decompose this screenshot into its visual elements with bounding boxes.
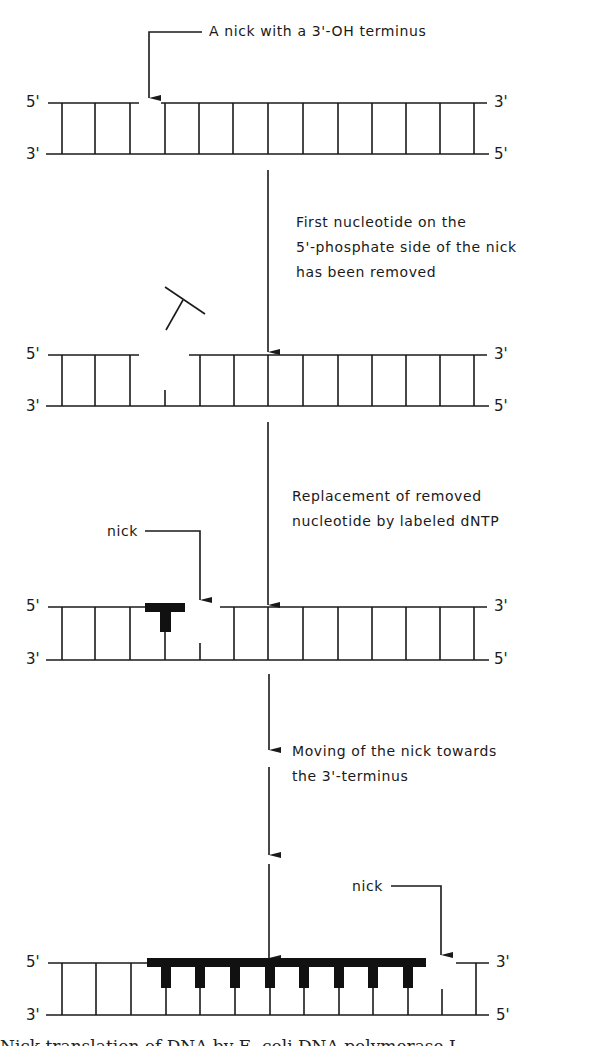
stage2-step-label: First nucleotide on the 5'-phosphate sid… <box>296 210 517 285</box>
stage4-top-right-end: 3' <box>496 953 510 971</box>
removed-nucleotide-icon <box>165 287 205 330</box>
stage1-top-right-end: 3' <box>494 93 508 111</box>
labeled-nucleotide-icon <box>145 603 185 632</box>
stage4-bottom-left-end: 3' <box>26 1006 40 1024</box>
stage3-bottom-right-end: 5' <box>494 650 508 668</box>
stage4-nick-label: nick <box>352 877 383 896</box>
nick-callout-arrow <box>149 32 202 98</box>
stage4-duplex <box>46 886 489 1015</box>
stage3-bottom-left-end: 3' <box>26 650 40 668</box>
stage3-top-right-end: 3' <box>494 597 508 615</box>
stage3-step-label: Replacement of removed nucleotide by lab… <box>292 484 499 534</box>
stage4-bottom-right-end: 5' <box>496 1006 510 1024</box>
base-pair-rungs <box>62 103 474 154</box>
stage1-bottom-left-end: 3' <box>26 145 40 163</box>
stage2-bottom-right-end: 5' <box>494 397 508 415</box>
labeled-strand-icon <box>147 958 426 988</box>
nick-callout-arrow <box>145 531 200 600</box>
base-pair-rungs <box>62 355 474 406</box>
figure-caption-clipped: Nick translation of DNA by E. coli DNA p… <box>0 1036 590 1046</box>
stage1-bottom-right-end: 5' <box>494 145 508 163</box>
stage2-top-left-end: 5' <box>26 345 40 363</box>
stage1-duplex <box>46 32 489 154</box>
stage2-bottom-left-end: 3' <box>26 397 40 415</box>
stage4-top-left-end: 5' <box>26 953 40 971</box>
stage1-top-left-end: 5' <box>26 93 40 111</box>
stage3-top-left-end: 5' <box>26 597 40 615</box>
stage3-nick-label: nick <box>107 522 138 541</box>
stage4-step-label: Moving of the nick towards the 3'-termin… <box>292 739 497 789</box>
stage1-callout-label: A nick with a 3'-OH terminus <box>209 22 426 41</box>
base-pair-rungs <box>62 607 474 660</box>
stage2-top-right-end: 3' <box>494 345 508 363</box>
nick-callout-arrow <box>391 886 441 955</box>
